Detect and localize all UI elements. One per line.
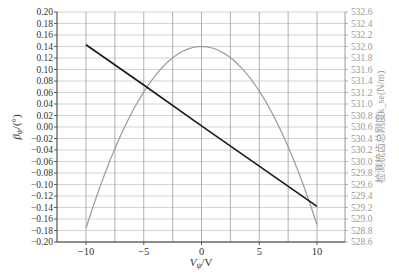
left-tick-label: 0.18 (36, 19, 53, 29)
x-tick-label: 10 (312, 246, 323, 257)
left-tick-label: 0.08 (36, 76, 53, 86)
right-tick-label: 529.0 (351, 214, 373, 224)
right-tick-label: 531.6 (351, 65, 373, 75)
left-tick-label: 0.06 (36, 88, 53, 98)
right-tick-label: 532.4 (351, 19, 373, 29)
left-y-axis-title: βψ/(°) (10, 114, 24, 141)
left-tick-label: 0.00 (36, 122, 53, 132)
left-tick-label: −0.14 (31, 203, 53, 213)
left-tick-label: −0.08 (31, 168, 53, 178)
right-tick-label: 531.0 (351, 99, 373, 109)
x-tick-label: 5 (257, 246, 262, 257)
left-tick-label: −0.16 (31, 214, 53, 224)
right-y-axis-title: 检测梳齿总刚度k_se(N/m) (374, 71, 387, 184)
right-tick-label: 529.6 (351, 180, 373, 190)
left-tick-label: −0.10 (31, 180, 53, 190)
x-tick-label: −5 (138, 246, 149, 257)
left-tick-label: 0.02 (36, 111, 53, 121)
right-tick-label: 532.2 (351, 30, 373, 40)
right-y-axis: 532.6532.4532.2532.0531.8531.6531.4531.2… (345, 7, 373, 247)
right-tick-label: 529.8 (351, 168, 373, 178)
left-y-axis: 0.200.180.160.140.120.100.080.060.040.02… (31, 7, 57, 247)
x-axis-title: Vψ/V (190, 256, 213, 270)
right-tick-label: 532.0 (351, 42, 373, 52)
left-tick-label: −0.20 (31, 237, 53, 247)
left-tick-label: 0.04 (36, 99, 53, 109)
left-tick-label: 0.14 (36, 42, 53, 52)
left-tick-label: 0.16 (36, 30, 53, 40)
right-tick-label: 531.2 (351, 88, 373, 98)
right-tick-label: 531.4 (351, 76, 373, 86)
right-tick-label: 530.0 (351, 157, 373, 167)
right-tick-label: 528.8 (351, 226, 373, 236)
left-tick-label: 0.12 (36, 53, 53, 63)
right-tick-label: 530.8 (351, 111, 373, 121)
right-tick-label: 529.2 (351, 203, 373, 213)
right-tick-label: 531.8 (351, 53, 373, 63)
left-tick-label: −0.02 (31, 134, 53, 144)
left-tick-label: 0.20 (36, 7, 53, 17)
x-tick-label: −10 (78, 246, 94, 257)
right-tick-label: 529.4 (351, 191, 373, 201)
right-tick-label: 528.6 (351, 237, 373, 247)
right-tick-label: 530.4 (351, 134, 373, 144)
x-axis: −10−50510 (57, 242, 345, 257)
left-tick-label: −0.06 (31, 157, 53, 167)
left-tick-label: −0.18 (31, 226, 53, 236)
right-tick-label: 530.2 (351, 145, 373, 155)
right-tick-label: 530.6 (351, 122, 373, 132)
left-tick-label: 0.10 (36, 65, 53, 75)
left-tick-label: −0.04 (31, 145, 53, 155)
left-tick-label: −0.12 (31, 191, 53, 201)
right-tick-label: 532.6 (351, 7, 373, 17)
dual-axis-line-chart: 0.200.180.160.140.120.100.080.060.040.02… (0, 0, 399, 279)
